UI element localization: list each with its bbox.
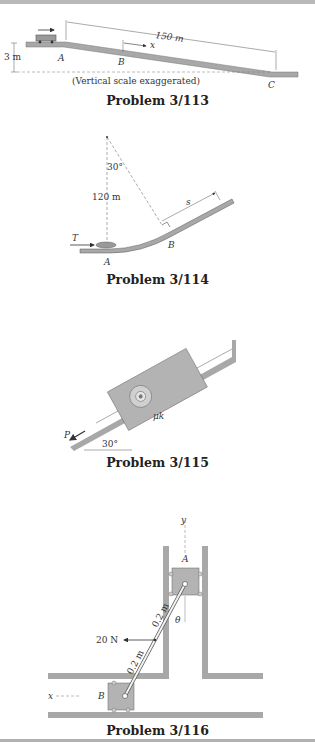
vehicle-icon — [96, 242, 116, 248]
svg-text:μk: μk — [153, 411, 164, 421]
svg-text:20 N: 20 N — [96, 635, 118, 645]
figure-3-116: y A 0.2 m 0.2 m θ 20 N x B — [48, 515, 263, 718]
svg-text:A: A — [103, 257, 111, 267]
svg-text:30°: 30° — [102, 439, 118, 449]
svg-text:B: B — [117, 57, 125, 67]
svg-text:C: C — [268, 80, 275, 90]
figure-3-115: μk P 30° — [63, 340, 236, 451]
svg-text:θ: θ — [175, 615, 181, 625]
cart-icon — [36, 35, 56, 41]
svg-text:x: x — [150, 40, 155, 50]
caption-3-114: Problem 3/114 — [0, 272, 315, 287]
caption-3-116: Problem 3/116 — [0, 723, 315, 738]
figures-canvas: 150 m x 3 m A B C (Vertical scale exagge… — [0, 0, 315, 742]
figure-3-114: 30° 120 m s T A B — [70, 136, 234, 267]
caption-3-113: Problem 3/113 — [0, 93, 315, 108]
svg-text:T: T — [72, 233, 79, 243]
svg-text:A: A — [57, 53, 65, 63]
svg-text:(Vertical scale exaggerated): (Vertical scale exaggerated) — [72, 76, 200, 86]
figure-3-113: 150 m x 3 m A B C (Vertical scale exagge… — [4, 20, 298, 90]
svg-text:B: B — [167, 240, 175, 250]
svg-text:120 m: 120 m — [92, 192, 121, 202]
svg-text:B: B — [97, 691, 105, 701]
svg-text:y: y — [180, 515, 187, 525]
svg-text:P: P — [63, 430, 71, 440]
svg-text:s: s — [186, 197, 191, 207]
caption-3-115: Problem 3/115 — [0, 455, 315, 470]
distance-label: 150 m — [155, 30, 185, 44]
svg-text:x: x — [48, 691, 53, 701]
svg-text:A: A — [181, 554, 189, 564]
svg-text:30°: 30° — [107, 162, 123, 172]
svg-text:3 m: 3 m — [4, 52, 22, 62]
